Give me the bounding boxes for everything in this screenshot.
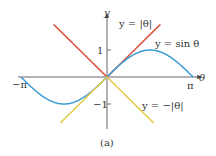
- caption: (a): [100, 137, 114, 148]
- y-axis-label: y: [103, 7, 110, 18]
- label-neg-abs-theta: y = −|θ|: [141, 100, 184, 112]
- x-tick-label-pi: π: [187, 80, 194, 91]
- label-abs-theta: y = |θ|: [118, 18, 152, 30]
- y-tick-label-1: 1: [97, 45, 103, 56]
- x-axis-label: θ: [199, 72, 205, 83]
- label-sin-theta: y = sin θ: [154, 38, 199, 49]
- x-tick-label-neg-pi: −π: [12, 79, 27, 90]
- y-tick-label-neg1: −1: [93, 99, 108, 110]
- chart: −π π 1 −1 θ y y = |θ| y = sin θ y = −|θ|…: [0, 0, 216, 156]
